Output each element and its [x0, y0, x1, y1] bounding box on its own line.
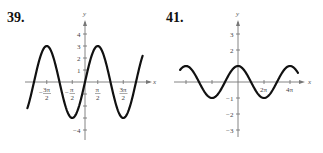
x-axis-label: x — [307, 78, 312, 86]
x-axis-arrow-icon — [299, 80, 305, 84]
y-label-2: 2 — [230, 47, 234, 55]
svg-text:2: 2 — [71, 94, 75, 102]
y-label-1: 1 — [77, 67, 81, 75]
svg-text:π: π — [70, 86, 74, 94]
y-axis-label: y — [82, 10, 87, 18]
x-label-3pi-over-2: 3π 2 — [120, 86, 128, 102]
x-label-neg-3pi-over-2: − 3π 2 — [39, 86, 51, 102]
x-axis-arrow-icon — [146, 80, 152, 84]
graph-39-plot: x y 4 3 2 1 −4 − 3π 2 — [0, 0, 160, 153]
y-label-neg2: −2 — [226, 111, 234, 119]
svg-text:2: 2 — [96, 94, 100, 102]
y-axis-arrow-icon — [83, 20, 87, 26]
svg-text:−: − — [65, 89, 69, 97]
y-label-neg1: −1 — [226, 95, 234, 103]
x-label-pi-over-2: π 2 — [95, 86, 101, 102]
svg-text:2: 2 — [45, 94, 49, 102]
graph-39: 39. x y 4 3 2 1 −4 — [0, 0, 160, 153]
y-label-4: 4 — [77, 31, 81, 39]
y-axis-label: y — [235, 10, 240, 18]
svg-text:3π: 3π — [120, 86, 128, 94]
graph-41-plot: x y 3 2 −1 −2 −3 2π 4π — [160, 0, 323, 153]
y-axis-arrow-icon — [236, 20, 240, 26]
graph-41: 41. x y 3 2 −1 −2 −3 2π 4π — [160, 0, 323, 153]
y-label-3: 3 — [77, 43, 81, 51]
svg-text:2: 2 — [122, 94, 126, 102]
y-label-neg4: −4 — [73, 127, 81, 135]
x-label-4pi: 4π — [286, 86, 294, 94]
svg-text:3π: 3π — [43, 86, 51, 94]
x-label-neg-pi-over-2: − π 2 — [65, 86, 75, 102]
y-label-2: 2 — [77, 55, 81, 63]
y-label-neg3: −3 — [226, 127, 234, 135]
x-axis-label: x — [152, 78, 157, 86]
y-label-3: 3 — [230, 31, 234, 39]
x-label-2pi: 2π — [260, 86, 268, 94]
svg-text:π: π — [96, 86, 100, 94]
